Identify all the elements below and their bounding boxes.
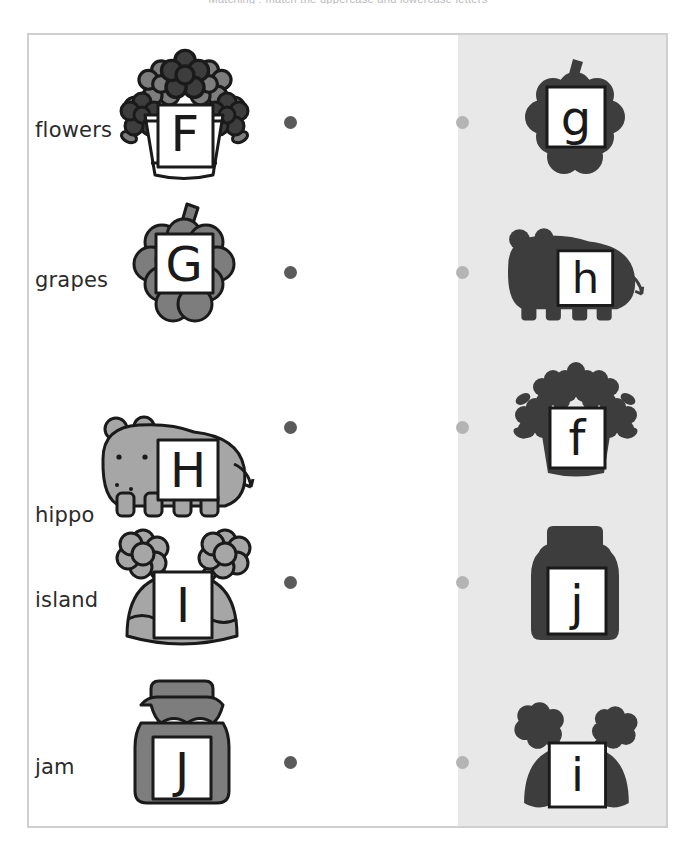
flower-pot-silhouette-icon[interactable]: f xyxy=(495,363,655,503)
letter-glyph: F xyxy=(171,105,200,163)
matching-row: grapes G xyxy=(29,200,666,355)
island-icon[interactable]: I xyxy=(99,524,264,649)
connector-dot-left[interactable] xyxy=(284,756,297,769)
grapes-icon[interactable]: G xyxy=(109,200,259,340)
letter-glyph: J xyxy=(172,742,189,798)
connector-dot-right[interactable] xyxy=(456,266,469,279)
grapes-silhouette-icon[interactable]: g xyxy=(495,51,655,191)
connector-dot-left[interactable] xyxy=(284,421,297,434)
hippo-silhouette-icon[interactable]: h xyxy=(495,210,655,350)
island-silhouette-icon[interactable]: i xyxy=(495,689,655,829)
letter-glyph: H xyxy=(170,442,206,498)
letter-glyph: i xyxy=(571,748,584,802)
matching-row: hippo xyxy=(29,355,666,510)
matching-rows: flowers xyxy=(29,35,666,826)
letter-glyph: h xyxy=(572,253,599,303)
connector-dot-left[interactable] xyxy=(284,116,297,129)
matching-row: jam J xyxy=(29,665,666,820)
letter-glyph: j xyxy=(569,575,583,631)
connector-dot-right[interactable] xyxy=(456,421,469,434)
matching-row: island xyxy=(29,510,666,665)
letter-glyph: I xyxy=(176,577,190,633)
letter-glyph: g xyxy=(561,90,591,146)
worksheet-frame: flowers xyxy=(27,33,668,828)
letter-glyph: f xyxy=(569,410,587,466)
connector-dot-right[interactable] xyxy=(456,756,469,769)
connector-dot-right[interactable] xyxy=(456,116,469,129)
connector-dot-left[interactable] xyxy=(284,576,297,589)
connector-dot-right[interactable] xyxy=(456,576,469,589)
worksheet-instruction: Matching : match the uppercase and lower… xyxy=(0,0,696,4)
letter-glyph: G xyxy=(165,236,202,292)
jam-jar-silhouette-icon[interactable]: j xyxy=(495,518,655,658)
matching-row: flowers xyxy=(29,45,666,200)
flower-pot-icon[interactable]: F xyxy=(109,51,259,191)
jam-jar-icon[interactable]: J xyxy=(117,671,247,811)
connector-dot-left[interactable] xyxy=(284,266,297,279)
